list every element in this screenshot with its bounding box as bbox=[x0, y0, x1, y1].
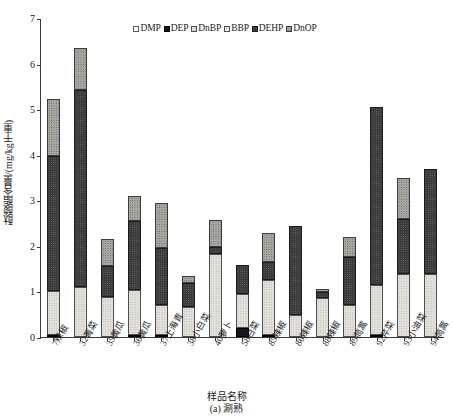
y-tick-mark bbox=[37, 65, 41, 66]
bar-segment-dnop bbox=[209, 220, 222, 247]
bar-segment-dnbp bbox=[424, 274, 437, 337]
bar-segment-dnop bbox=[343, 237, 356, 258]
y-tick-label: 1 bbox=[30, 287, 35, 297]
x-axis-title: 样品名称 bbox=[0, 391, 453, 404]
bar-stack[interactable] bbox=[209, 220, 222, 337]
y-axis-title: 酞酸酯含量/(mg/kg干重) bbox=[4, 120, 14, 225]
bar-segment-dnop bbox=[262, 233, 275, 262]
bar-segment-dehp bbox=[101, 266, 114, 297]
bar-stack[interactable] bbox=[370, 107, 383, 337]
bar-stack[interactable] bbox=[74, 48, 87, 337]
bar-segment-dnbp bbox=[262, 280, 275, 335]
y-axis-line bbox=[40, 19, 41, 338]
bar-stack[interactable] bbox=[128, 196, 141, 337]
y-tick-label: 7 bbox=[30, 14, 35, 24]
bar-segment-dnbp bbox=[236, 294, 249, 329]
bar-segment-dnop bbox=[182, 276, 195, 283]
bar-segment-dehp bbox=[262, 262, 275, 281]
bar-segment-dnbp bbox=[397, 274, 410, 337]
bar-segment-dehp bbox=[424, 169, 437, 273]
bar-segment-dehp bbox=[47, 156, 60, 291]
bar-segment-dnop bbox=[397, 178, 410, 219]
bar-stack[interactable] bbox=[101, 239, 114, 337]
bar-segment-dehp bbox=[343, 257, 356, 305]
bar-segment-dnop bbox=[47, 99, 60, 156]
chart-figure: DMPDEPDnBPBBPDEHPDnOP 酞酸酯含量/(mg/kg干重) 01… bbox=[0, 0, 453, 420]
y-tick-mark bbox=[37, 338, 41, 339]
bar-segment-dehp bbox=[182, 283, 195, 308]
y-tick-mark bbox=[37, 201, 41, 202]
bar-segment-dnop bbox=[155, 203, 168, 248]
bar-segment-dnbp bbox=[209, 254, 222, 337]
bar-segment-dehp bbox=[74, 90, 87, 287]
bar-segment-dehp bbox=[397, 219, 410, 274]
y-tick-label: 0 bbox=[30, 333, 35, 343]
figure-caption: (a) 涮熟 bbox=[0, 403, 453, 416]
y-tick-mark bbox=[37, 292, 41, 293]
y-tick-label: 5 bbox=[30, 105, 35, 115]
y-tick-mark bbox=[37, 19, 41, 20]
bar-stack[interactable] bbox=[397, 178, 410, 337]
y-tick-mark bbox=[37, 156, 41, 157]
bar-segment-dehp bbox=[209, 247, 222, 254]
y-tick-label: 2 bbox=[30, 242, 35, 252]
y-tick-label: 3 bbox=[30, 196, 35, 206]
bar-stack[interactable] bbox=[289, 226, 302, 337]
y-tick-mark bbox=[37, 247, 41, 248]
bar-stack[interactable] bbox=[236, 265, 249, 337]
bar-stack[interactable] bbox=[155, 203, 168, 337]
bar-stack[interactable] bbox=[47, 99, 60, 337]
bar-stack[interactable] bbox=[424, 169, 437, 337]
bar-segment-dehp bbox=[128, 221, 141, 291]
bar-segment-dnop bbox=[128, 196, 141, 221]
plot-area: 01234567 bbox=[40, 19, 444, 338]
y-tick-label: 4 bbox=[30, 151, 35, 161]
y-tick-label: 6 bbox=[30, 60, 35, 70]
bar-segment-dehp bbox=[155, 248, 168, 305]
bar-stack[interactable] bbox=[262, 233, 275, 338]
bar-segment-dehp bbox=[289, 226, 302, 315]
y-tick-mark bbox=[37, 110, 41, 111]
bar-segment-dehp bbox=[236, 265, 249, 293]
bar-segment-dnop bbox=[74, 48, 87, 90]
bar-stack[interactable] bbox=[343, 237, 356, 337]
bar-segment-dnop bbox=[101, 239, 114, 266]
bar-segment-dehp bbox=[370, 107, 383, 286]
